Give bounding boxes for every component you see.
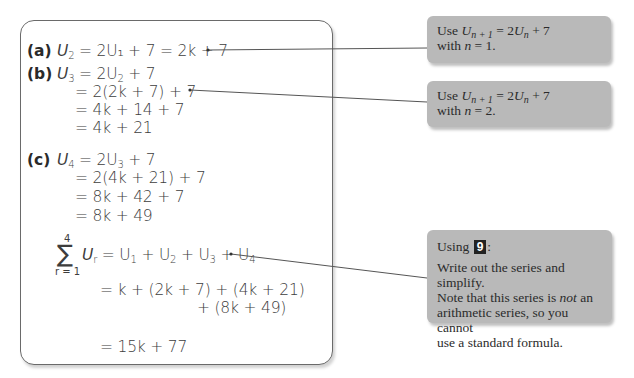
note-a-line-1: Use Un + 1 = 2Un + 7: [437, 23, 601, 38]
note-sum-body-2: Note that this series is not an: [437, 290, 602, 305]
key-point-9-badge: 9: [474, 240, 487, 254]
note-a-line-2: with n = 1.: [437, 38, 601, 53]
note-sum: Using 9: Write out the series and simpli…: [427, 230, 612, 323]
note-sum-body-3: arithmetic series, so you cannot: [437, 305, 602, 335]
note-part-b: Use Un + 1 = 2Un + 7 with n = 2.: [427, 81, 611, 127]
note-part-a: Use Un + 1 = 2Un + 7 with n = 1.: [427, 16, 611, 63]
note-sum-body-4: use a standard formula.: [437, 335, 602, 350]
note-sum-heading: Using 9:: [437, 239, 602, 254]
note-b-line-2: with n = 2.: [437, 103, 601, 118]
note-b-line-1: Use Un + 1 = 2Un + 7: [437, 88, 601, 103]
note-sum-body-1: Write out the series and simplify.: [437, 260, 602, 290]
